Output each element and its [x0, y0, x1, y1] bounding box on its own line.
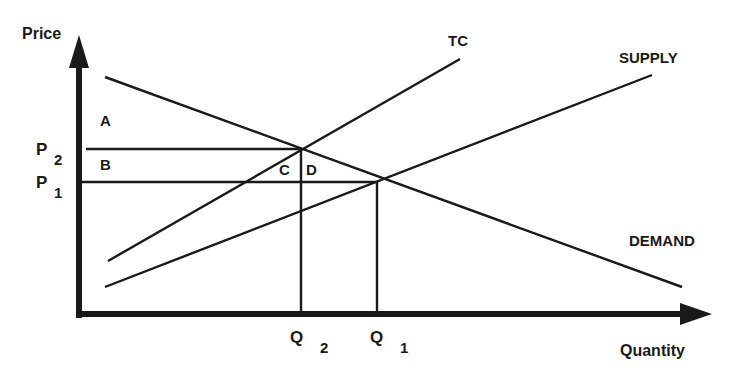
y-axis-arrow-icon: [69, 35, 89, 68]
p1-label: P: [36, 174, 47, 191]
q1-subscript: 1: [400, 340, 408, 355]
area-a-label: A: [100, 113, 111, 128]
tc-curve: [108, 59, 460, 261]
p1-subscript: 1: [54, 185, 62, 200]
x-axis-title: Quantity: [620, 343, 685, 359]
q2-label: Q: [290, 329, 303, 346]
p2-label: P: [36, 141, 47, 158]
area-b-label: B: [100, 157, 111, 172]
q1-letter: Q: [370, 328, 383, 347]
area-d-label: D: [306, 162, 317, 177]
q2-letter: Q: [290, 328, 303, 347]
y-axis-title: Price: [22, 26, 61, 42]
supply-curve-label: SUPPLY: [619, 50, 678, 65]
p2-subscript: 2: [54, 152, 62, 167]
demand-curve-label: DEMAND: [629, 233, 695, 248]
x-axis-arrow-icon: [680, 303, 712, 325]
p1-letter: P: [36, 173, 47, 192]
y-axis: [69, 35, 89, 318]
q2-subscript: 2: [320, 340, 328, 355]
area-c-label: C: [279, 162, 290, 177]
p2-letter: P: [36, 140, 47, 159]
x-axis: [76, 303, 712, 325]
q1-label: Q: [370, 329, 383, 346]
tc-curve-label: TC: [448, 33, 468, 48]
